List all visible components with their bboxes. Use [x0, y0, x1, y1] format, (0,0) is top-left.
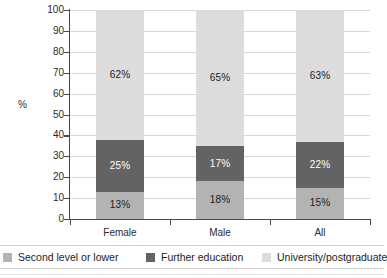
y-axis-tick-label-text: 30 — [38, 151, 64, 161]
y-axis-tick-label: 70 — [30, 68, 64, 78]
bar-segment[interactable]: 65% — [196, 10, 244, 146]
bar-segment-value-label: 17% — [210, 159, 231, 169]
y-axis-tick-label: 10 — [30, 193, 64, 203]
bar-segment-value-label: 62% — [110, 70, 131, 80]
bar-group[interactable]: 13%25%62% — [96, 10, 144, 219]
y-axis-tick-label-text: 90 — [38, 26, 64, 36]
legend-swatch-icon — [146, 253, 155, 262]
bar-segment[interactable]: 18% — [196, 181, 244, 219]
y-axis-tick-label: 0 — [30, 214, 64, 224]
y-axis-tick-label-text: 80 — [38, 47, 64, 57]
x-axis-category-label: All — [275, 227, 365, 238]
bar-segment[interactable]: 13% — [96, 192, 144, 219]
legend-swatch-icon — [262, 253, 271, 262]
y-axis-tick-label-text: 40 — [38, 130, 64, 140]
bar-segment-value-label: 15% — [310, 198, 331, 208]
y-axis-tick-label: 50 — [30, 110, 64, 120]
bar-group[interactable]: 18%17%65% — [196, 10, 244, 219]
bar-segment[interactable]: 15% — [296, 188, 344, 219]
y-axis-tick-label-text: 20 — [38, 172, 64, 182]
bar-segment-value-label: 25% — [110, 161, 131, 171]
legend-item-label: University/postgraduate — [277, 252, 387, 263]
y-axis-tick-label-text: 100 — [38, 5, 64, 15]
plot-area: 13%25%62%18%17%65%15%22%63% — [70, 10, 370, 219]
x-axis-tick-mark — [70, 220, 71, 225]
stacked-bar-chart: % 1009080706050403020100 13%25%62%18%17%… — [0, 0, 384, 240]
y-axis-tick-label: 100 — [30, 5, 64, 15]
y-axis-tick-label-text: 50 — [38, 110, 64, 120]
bar-group[interactable]: 15%22%63% — [296, 10, 344, 219]
x-axis-category-label: Male — [175, 227, 265, 238]
y-axis-tick-label: 80 — [30, 47, 64, 57]
bar-segment-value-label: 22% — [310, 160, 331, 170]
legend-item-label: Further education — [161, 252, 243, 263]
y-axis-tick-label: 40 — [30, 130, 64, 140]
x-axis-tick-mark — [370, 220, 371, 225]
x-axis-tick-mark — [170, 220, 171, 225]
y-axis-tick-label-text: 70 — [38, 68, 64, 78]
legend-item-university-postgraduate[interactable]: University/postgraduate — [262, 251, 387, 264]
y-axis-tick-label-text: 60 — [38, 89, 64, 99]
bar-segment[interactable]: 63% — [296, 10, 344, 142]
y-axis-tick-label-text: 10 — [38, 193, 64, 203]
bar-segment[interactable]: 17% — [196, 146, 244, 182]
x-axis-category-label: Female — [75, 227, 165, 238]
bar-segment[interactable]: 62% — [96, 10, 144, 140]
bar-segment[interactable]: 22% — [296, 142, 344, 188]
x-axis-line — [69, 219, 371, 220]
y-axis-tick-label: 90 — [30, 26, 64, 36]
y-axis-tick-label-text: 0 — [38, 214, 64, 224]
legend: Second level or lower Further education … — [0, 245, 384, 269]
legend-item-further-education[interactable]: Further education — [146, 251, 243, 264]
y-axis-tick-label: 30 — [30, 151, 64, 161]
y-axis-title: % — [18, 100, 27, 110]
x-axis-tick-mark — [270, 220, 271, 225]
bar-segment[interactable]: 25% — [96, 140, 144, 192]
bar-segment-value-label: 63% — [310, 71, 331, 81]
page-divider — [0, 274, 384, 275]
bar-segment-value-label: 65% — [210, 73, 231, 83]
legend-swatch-icon — [3, 253, 12, 262]
legend-item-second-level-or-lower[interactable]: Second level or lower — [3, 251, 118, 264]
y-axis-tick-label: 60 — [30, 89, 64, 99]
legend-item-label: Second level or lower — [18, 252, 118, 263]
bar-segment-value-label: 18% — [210, 195, 231, 205]
bar-segment-value-label: 13% — [110, 200, 131, 210]
y-axis-tick-label: 20 — [30, 172, 64, 182]
